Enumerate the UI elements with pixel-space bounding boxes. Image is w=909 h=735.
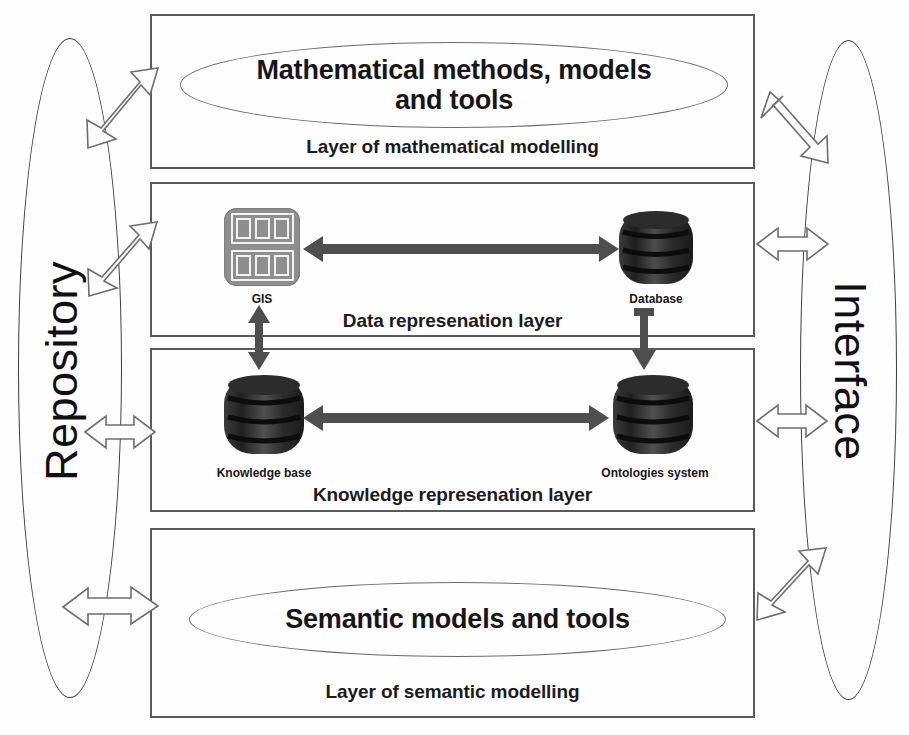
gis-icon-row-bottom: [231, 250, 294, 281]
ontologies-system-cylinder-svg: [607, 368, 699, 462]
knowledge-base-node-label: Knowledge base: [217, 466, 312, 480]
layer-box-semantic-modelling[interactable]: Semantic models and tools Layer of seman…: [150, 528, 755, 718]
math-ellipse-line2: and tools: [395, 85, 513, 115]
layer-box-knowledge-representation[interactable]: Knowledge base Ontologies system Knowled…: [150, 348, 755, 512]
gis-icon-cell: [236, 255, 251, 276]
gis-icon-cell: [274, 218, 289, 239]
gis-node-label: GIS: [252, 292, 273, 306]
mathematical-methods-ellipse[interactable]: Mathematical methods, models and tools: [180, 42, 728, 128]
database-cylinder-icon[interactable]: [613, 204, 699, 292]
layer-box-mathematical-modelling[interactable]: Mathematical methods, models and tools L…: [150, 14, 755, 169]
semantic-models-label: Semantic models and tools: [267, 604, 648, 634]
mathematical-methods-label: Mathematical methods, models and tools: [239, 55, 670, 115]
layer-caption-mathematical-modelling: Layer of mathematical modelling: [152, 136, 753, 158]
layer-caption-knowledge-representation: Knowledge represenation layer: [152, 484, 753, 506]
gis-icon-cell: [255, 218, 270, 239]
gis-icon-cell: [236, 218, 251, 239]
layer-caption-data-representation: Data represenation layer: [152, 310, 753, 332]
architecture-diagram: Repository Interface Mathematical method…: [0, 0, 909, 735]
gis-icon-cell: [255, 255, 270, 276]
ontologies-system-node-label: Ontologies system: [601, 466, 708, 480]
gis-grid-icon[interactable]: [224, 208, 300, 286]
layer-box-data-representation[interactable]: GIS Database: [150, 182, 755, 337]
math-ellipse-line1: Mathematical methods, models: [257, 55, 652, 85]
interface-label: Interface: [824, 251, 876, 491]
database-node-label: Database: [629, 292, 682, 306]
ontologies-system-cylinder-icon[interactable]: [607, 368, 699, 462]
gis-icon-row-top: [231, 213, 294, 244]
gis-icon-cell: [274, 255, 289, 276]
repository-label: Repository: [36, 251, 88, 491]
knowledge-base-cylinder-icon[interactable]: [218, 368, 310, 462]
database-cylinder-svg: [613, 204, 699, 292]
semantic-models-ellipse[interactable]: Semantic models and tools: [189, 582, 726, 657]
layer-caption-semantic-modelling: Layer of semantic modelling: [152, 681, 753, 703]
knowledge-base-cylinder-svg: [218, 368, 310, 462]
